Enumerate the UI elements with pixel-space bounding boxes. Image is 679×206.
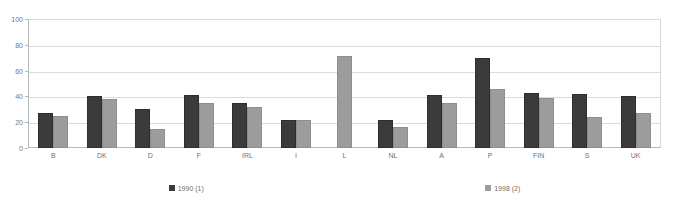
bar: [378, 120, 393, 148]
y-tick-label: 100: [11, 16, 23, 23]
bar-group: [466, 19, 515, 148]
x-tick-label: FIN: [514, 150, 563, 164]
bars-layer: [29, 19, 660, 148]
x-tick-label: A: [417, 150, 466, 164]
bar-group: [320, 19, 369, 148]
bar-group: [126, 19, 175, 148]
bar: [232, 103, 247, 148]
x-tick-label: DK: [78, 150, 127, 164]
bar: [587, 117, 602, 148]
legend-label: 1998 (2): [494, 185, 520, 192]
bar-group: [223, 19, 272, 148]
y-tick-label: 0: [19, 145, 23, 152]
bar: [281, 120, 296, 148]
x-axis: BDKDFIRLILNLAPFINSUK: [29, 150, 660, 164]
x-tick-label: S: [563, 150, 612, 164]
bar: [247, 107, 262, 148]
bar: [337, 56, 352, 148]
x-tick-label: L: [320, 150, 369, 164]
bar: [475, 58, 490, 148]
bar-group: [29, 19, 78, 148]
y-tick-label: 60: [15, 67, 23, 74]
bar-group: [417, 19, 466, 148]
bar-group: [563, 19, 612, 148]
bar-group: [514, 19, 563, 148]
y-tick-label: 40: [15, 93, 23, 100]
bar-chart: 020406080100 BDKDFIRLILNLAPFINSUK 1990 (…: [0, 0, 679, 206]
x-tick-label: IRL: [223, 150, 272, 164]
bar-group: [611, 19, 660, 148]
x-tick-label: UK: [611, 150, 660, 164]
bar: [199, 103, 214, 148]
legend-swatch-icon: [169, 185, 175, 191]
bar: [393, 127, 408, 148]
bar: [442, 103, 457, 148]
y-tick-label: 80: [15, 41, 23, 48]
bar: [102, 99, 117, 148]
bar-group: [78, 19, 127, 148]
x-tick-label: D: [126, 150, 175, 164]
x-tick-label: F: [175, 150, 224, 164]
bar: [87, 96, 102, 148]
bar: [38, 113, 53, 148]
x-tick-label: P: [466, 150, 515, 164]
legend-item[interactable]: 1998 (2): [485, 185, 520, 192]
bar-group: [175, 19, 224, 148]
bar-group: [369, 19, 418, 148]
chart-legend: 1990 (1)1998 (2): [28, 181, 661, 195]
bar: [427, 95, 442, 148]
legend-swatch-icon: [485, 185, 491, 191]
bar-group: [272, 19, 321, 148]
legend-label: 1990 (1): [178, 185, 204, 192]
x-tick-label: NL: [369, 150, 418, 164]
bar: [636, 113, 651, 148]
bar: [539, 98, 554, 148]
bar: [621, 96, 636, 148]
y-tick-label: 20: [15, 119, 23, 126]
bar: [524, 93, 539, 148]
bar: [135, 109, 150, 148]
legend-item[interactable]: 1990 (1): [169, 185, 204, 192]
bar: [296, 120, 311, 148]
bar: [150, 129, 165, 148]
x-tick-label: B: [29, 150, 78, 164]
y-axis: 020406080100: [0, 0, 28, 168]
y-tick-mark: [25, 148, 28, 149]
bar: [53, 116, 68, 148]
bar: [184, 95, 199, 148]
x-tick-label: I: [272, 150, 321, 164]
bar: [572, 94, 587, 148]
bar: [490, 89, 505, 148]
